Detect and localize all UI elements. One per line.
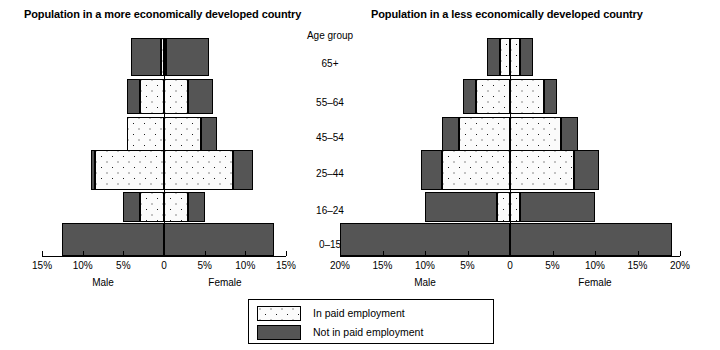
bar-segment-male-not-in-paid-employment	[442, 117, 459, 153]
x-tick	[553, 251, 554, 256]
x-tick	[425, 251, 426, 256]
bar-row-ledc-0-15	[330, 223, 720, 256]
bar-segment-male-not-in-paid-employment	[463, 79, 476, 114]
x-tick-label: 10%	[235, 260, 255, 271]
bar-row-medc-55-64	[0, 79, 300, 114]
legend-label: In paid employment	[313, 307, 405, 319]
legend-swatch-dark	[257, 325, 301, 340]
bar-segment-female-in-paid-employment	[164, 150, 233, 190]
bar-segment-male-in-paid-employment	[140, 79, 164, 114]
bar-segment-male-in-paid-employment	[497, 192, 510, 222]
bar-segment-female-in-paid-employment	[510, 192, 520, 222]
x-tick-label: 10%	[585, 260, 605, 271]
plot-area-ledc	[330, 34, 720, 256]
bar-segment-female-not-in-paid-employment	[520, 192, 595, 222]
x-tick	[680, 251, 681, 256]
age-group-label-55-64: 55–64	[316, 97, 344, 108]
bar-segment-female-in-paid-employment	[510, 79, 544, 114]
x-tick	[164, 251, 165, 256]
bar-row-ledc-25-44	[330, 150, 720, 190]
x-tick	[638, 251, 639, 256]
x-tick-label: 15%	[276, 260, 296, 271]
bar-row-medc-25-44	[0, 150, 300, 190]
bar-segment-female-in-paid-employment	[164, 117, 201, 153]
bar-segment-female-in-paid-employment	[510, 117, 561, 153]
bar-row-medc-0-15	[0, 223, 300, 256]
bar-segment-female-not-in-paid-employment	[188, 79, 212, 114]
bar-segment-male-in-paid-employment	[476, 79, 510, 114]
x-tick-label: 20%	[670, 260, 690, 271]
bar-row-ledc-65+	[330, 38, 720, 76]
plot-area-medc	[0, 34, 300, 256]
bar-segment-male-in-paid-employment	[140, 192, 164, 222]
bar-segment-female-not-in-paid-employment	[188, 192, 204, 222]
x-tick	[205, 251, 206, 256]
x-tick	[42, 251, 43, 256]
chart-title-ledc: Population in a less economically develo…	[371, 8, 643, 20]
sex-label-female: Female	[578, 277, 611, 288]
bar-segment-female-in-paid-employment	[164, 79, 188, 114]
bar-segment-male-not-in-paid-employment	[131, 38, 160, 76]
x-tick-label: 10%	[415, 260, 435, 271]
x-tick	[123, 251, 124, 256]
x-tick-label: 15%	[372, 260, 392, 271]
age-group-label-25-44: 25–44	[316, 168, 344, 179]
x-tick-label: 20%	[330, 260, 350, 271]
bar-segment-male-not-in-paid-employment	[91, 150, 95, 190]
x-tick-label: 10%	[73, 260, 93, 271]
axis-line	[340, 256, 680, 257]
bar-segment-female-not-in-paid-employment	[561, 117, 578, 153]
zero-axis-line-medc	[164, 38, 165, 256]
x-tick	[383, 251, 384, 256]
x-tick	[83, 251, 84, 256]
bar-segment-female-in-paid-employment	[164, 192, 188, 222]
x-tick-label: 5%	[197, 260, 211, 271]
bar-segment-male-not-in-paid-employment	[421, 150, 442, 190]
x-tick	[286, 251, 287, 256]
x-tick	[468, 251, 469, 256]
x-tick-label: 15%	[32, 260, 52, 271]
x-tick-label: 5%	[460, 260, 474, 271]
sex-label-male: Male	[414, 277, 436, 288]
legend-swatch-dots	[257, 306, 301, 321]
bar-row-medc-45-54	[0, 117, 300, 153]
chart-legend: In paid employmentNot in paid employment	[248, 299, 494, 344]
legend-item-in-paid-employment: In paid employment	[257, 306, 487, 322]
x-tick	[340, 251, 341, 256]
x-tick-label: 0	[507, 260, 513, 271]
bar-segment-female-not-in-paid-employment	[233, 150, 253, 190]
x-tick	[510, 251, 511, 256]
bar-segment-male-not-in-paid-employment	[425, 192, 497, 222]
x-tick	[595, 251, 596, 256]
legend-label: Not in paid employment	[313, 326, 423, 338]
bar-segment-female-not-in-paid-employment	[544, 79, 557, 114]
bar-segment-female-not-in-paid-employment	[164, 223, 274, 256]
bar-segment-male-in-paid-employment	[95, 150, 164, 190]
sex-label-female: Female	[208, 277, 241, 288]
bar-segment-male-in-paid-employment	[127, 117, 164, 153]
age-group-header: Age group	[307, 30, 353, 41]
x-tick-label: 5%	[545, 260, 559, 271]
bar-segment-male-not-in-paid-employment	[62, 223, 164, 256]
bar-segment-male-in-paid-employment	[459, 117, 510, 153]
bar-segment-male-not-in-paid-employment	[127, 79, 139, 114]
bar-row-medc-16-24	[0, 192, 300, 222]
age-group-label-16-24: 16–24	[316, 205, 344, 216]
age-group-label-45-54: 45–54	[316, 132, 344, 143]
bar-row-ledc-55-64	[330, 79, 720, 114]
x-tick-label: 0	[161, 260, 167, 271]
population-pyramid-figure: Population in a more economically develo…	[0, 0, 720, 350]
bar-segment-male-in-paid-employment	[500, 38, 510, 76]
bar-segment-female-not-in-paid-employment	[510, 223, 672, 256]
bar-segment-male-in-paid-employment	[442, 150, 510, 190]
sex-label-male: Male	[92, 277, 114, 288]
x-tick-label: 15%	[627, 260, 647, 271]
bar-row-medc-65+	[0, 38, 300, 76]
bar-segment-female-not-in-paid-employment	[574, 150, 600, 190]
bar-row-ledc-45-54	[330, 117, 720, 153]
bar-segment-female-in-paid-employment	[510, 150, 574, 190]
bar-segment-female-not-in-paid-employment	[520, 38, 533, 76]
bar-segment-female-in-paid-employment	[510, 38, 520, 76]
x-tick-label: 5%	[116, 260, 130, 271]
age-group-label-65+: 65+	[322, 58, 339, 69]
